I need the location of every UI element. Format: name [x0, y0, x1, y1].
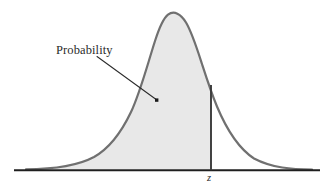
shaded-probability-area: [36, 13, 211, 169]
z-axis-label: z: [207, 173, 211, 184]
probability-leader-dot: [155, 98, 158, 101]
normal-distribution-figure: Probability z: [0, 0, 336, 192]
probability-label: Probability: [56, 44, 113, 57]
distribution-chart-svg: [0, 0, 336, 192]
